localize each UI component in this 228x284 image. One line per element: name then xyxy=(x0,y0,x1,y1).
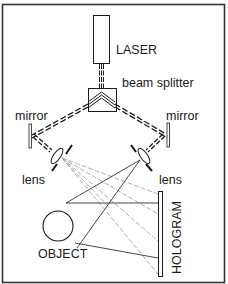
hologram xyxy=(159,192,163,277)
object xyxy=(43,211,73,241)
lens-left xyxy=(49,145,72,171)
lens-left-label: lens xyxy=(22,173,45,187)
beam-to-right-mirror xyxy=(115,104,166,137)
beam-mirror-to-right-lens xyxy=(146,134,165,152)
laser-label: LASER xyxy=(116,43,157,57)
beam-mirror-to-left-lens xyxy=(33,134,52,152)
beam-splitter-label: beam splitter xyxy=(122,76,194,90)
mirror-left xyxy=(29,124,32,148)
mirror-left-label: mirror xyxy=(15,109,48,123)
lens-right xyxy=(131,145,152,171)
diagram-frame xyxy=(3,5,225,283)
mirror-right-label: mirror xyxy=(166,109,199,123)
hologram-label: HOLOGRAM xyxy=(170,201,184,274)
mirror-right xyxy=(167,123,170,147)
lens-right-label: lens xyxy=(159,173,182,187)
laser xyxy=(94,16,110,64)
holography-diagram: LASER beam splitter mirror mirror xyxy=(0,0,228,284)
object-label: OBJECT xyxy=(38,247,88,261)
